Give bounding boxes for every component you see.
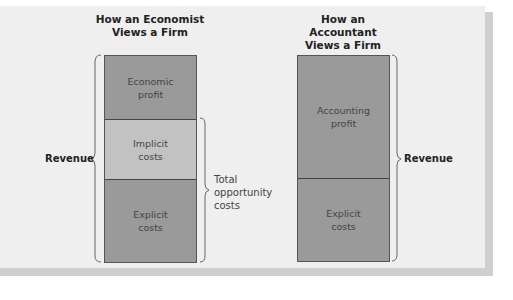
braces bbox=[0, 0, 513, 300]
opportunity-costs-label: Total opportunity costs bbox=[214, 173, 272, 212]
revenue-label-left: Revenue bbox=[45, 153, 94, 164]
revenue-label-right: Revenue bbox=[404, 153, 453, 164]
opportunity-brace bbox=[200, 118, 209, 262]
revenue-brace-right bbox=[392, 55, 401, 261]
